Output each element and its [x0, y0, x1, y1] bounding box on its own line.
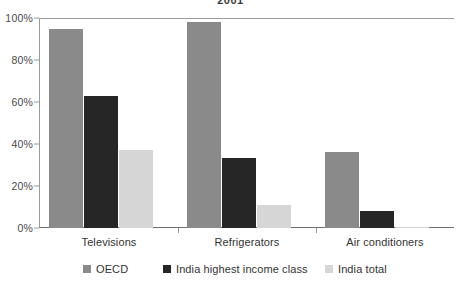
bar	[84, 96, 118, 228]
bar	[119, 150, 153, 228]
legend-label: India total	[338, 263, 387, 275]
bar	[222, 158, 256, 228]
bar	[360, 211, 394, 228]
bar	[49, 29, 83, 229]
y-axis: 0%20%40%60%80%100%	[0, 0, 39, 240]
bar	[257, 205, 291, 228]
x-axis-separator	[316, 228, 317, 233]
legend-item[interactable]: India total	[325, 263, 387, 275]
bar-chart: 2001 0%20%40%60%80%100% TelevisionsRefri…	[0, 0, 461, 289]
legend-label: India highest income class	[176, 263, 308, 275]
y-axis-tick-label: 60%	[11, 96, 33, 108]
legend-label: OECD	[96, 263, 128, 275]
bar	[325, 152, 359, 228]
x-axis-category-label: Air conditioners	[346, 236, 423, 248]
x-axis-category-label: Refrigerators	[215, 236, 280, 248]
chart-legend: OECDIndia highest income classIndia tota…	[0, 263, 461, 283]
legend-item[interactable]: India highest income class	[163, 263, 308, 275]
bar-group	[178, 18, 316, 228]
y-axis-tick-label: 100%	[5, 12, 33, 24]
x-axis-separator	[178, 228, 179, 233]
bar	[395, 227, 429, 228]
y-axis-tick-label: 80%	[11, 54, 33, 66]
y-axis-tick-label: 20%	[11, 180, 33, 192]
bar-group	[316, 18, 454, 228]
legend-swatch-icon	[83, 265, 91, 273]
bars-layer	[40, 18, 454, 228]
legend-swatch-icon	[325, 265, 333, 273]
legend-item[interactable]: OECD	[83, 263, 128, 275]
y-axis-tick-label: 0%	[17, 222, 33, 234]
bar-group	[40, 18, 178, 228]
legend-swatch-icon	[163, 265, 171, 273]
bar	[187, 22, 221, 228]
chart-title: 2001	[0, 0, 461, 6]
y-axis-tick-label: 40%	[11, 138, 33, 150]
x-axis-category-label: Televisions	[82, 236, 137, 248]
x-axis-category-labels: TelevisionsRefrigeratorsAir conditioners	[39, 236, 454, 254]
